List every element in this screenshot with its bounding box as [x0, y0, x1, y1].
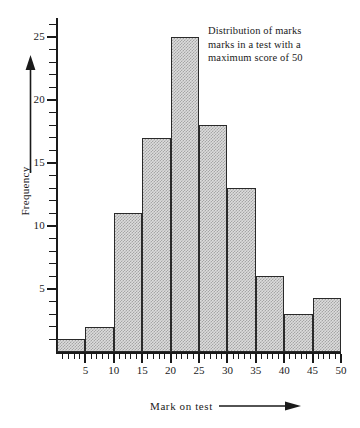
x-axis-title: Mark on test: [150, 400, 213, 412]
annotation-line-1: Distribution of marks: [208, 24, 332, 38]
histogram-bar: [284, 314, 312, 352]
arrow-right-icon: [219, 400, 301, 412]
histogram-bar: [313, 298, 341, 352]
histogram-bar: [142, 138, 170, 352]
histogram-bar: [227, 188, 255, 352]
histogram-bar: [85, 327, 113, 352]
histogram-bar: [199, 125, 227, 352]
histogram-bar: [256, 276, 284, 352]
histogram-bar: [114, 213, 142, 352]
annotation-line-3: maximum score of 50: [208, 51, 332, 65]
histogram-bar: [57, 339, 85, 352]
annotation-line-2: marks in a test with a: [208, 38, 332, 52]
histogram-bar: [171, 37, 199, 352]
histogram-chart: Frequency 5101520255101520253035404550 D…: [0, 0, 360, 428]
chart-annotation: Distribution of marks marks in a test wi…: [208, 24, 332, 65]
x-axis-title-group: Mark on test: [150, 400, 301, 412]
